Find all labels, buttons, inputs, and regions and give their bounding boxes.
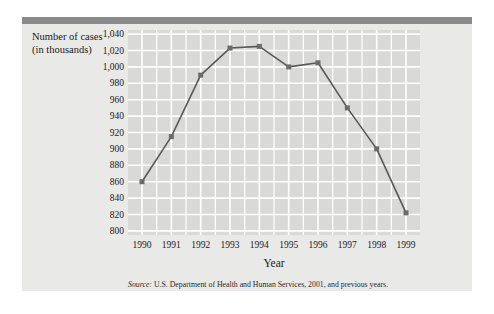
y-axis-tick-label: 900 [110,144,124,154]
y-axis-tick-label: 820 [110,210,124,220]
y-axis-tick-label: 980 [110,78,124,88]
figure-top-rule [22,17,472,24]
data-point-marker [140,179,145,184]
y-axis-tick-label: 1,000 [103,62,124,72]
y-axis-tick-label: 1,040 [103,29,124,39]
source-note: Source: U.S. Department of Health and Hu… [128,280,460,289]
y-axis-tick-label: 920 [110,128,124,138]
data-point-marker [257,44,262,49]
x-axis-tick-label: 1998 [367,240,386,250]
x-axis-tick-label: 1999 [397,240,416,250]
x-axis-tick-labels: 1990199119921993199419951996199719981999 [128,240,420,256]
x-axis-tick-label: 1995 [279,240,298,250]
data-point-marker [374,146,379,151]
y-axis-tick-label: 860 [110,177,124,187]
data-point-marker [316,60,321,65]
x-axis-tick-label: 1996 [309,240,328,250]
x-axis-tick-label: 1993 [221,240,240,250]
y-axis-tick-label: 800 [110,226,124,236]
x-axis-tick-label: 1997 [338,240,357,250]
data-point-marker [404,210,409,215]
x-axis-tick-label: 1994 [250,240,269,250]
y-axis-tick-label: 960 [110,95,124,105]
x-axis-tick-label: 1990 [133,240,152,250]
chart-figure: Number of cases (in thousands) 1,0401,02… [22,17,472,291]
y-axis-tick-label: 840 [110,193,124,203]
data-point-marker [169,134,174,139]
data-point-marker [198,73,203,78]
x-axis-tick-label: 1992 [191,240,210,250]
y-axis-tick-label: 880 [110,160,124,170]
x-axis-title: Year [128,257,420,269]
source-note-text: U.S. Department of Health and Human Serv… [152,280,388,289]
plot-area [128,30,420,235]
y-axis-tick-labels: 1,0401,0201,0009809609409209008808608408… [76,30,124,235]
plot-wrapper: 1,0401,0201,0009809609409209008808608408… [128,30,420,235]
data-point-marker [286,64,291,69]
y-axis-tick-label: 940 [110,111,124,121]
line-chart-svg [128,30,420,235]
data-point-marker [228,46,233,51]
source-note-label: Source: [128,280,152,289]
y-axis-tick-label: 1,020 [103,46,124,56]
data-point-marker [345,105,350,110]
x-axis-tick-label: 1991 [162,240,181,250]
